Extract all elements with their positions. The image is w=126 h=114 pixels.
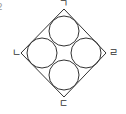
label-top: ㄱ bbox=[59, 0, 68, 9]
label-left: ㄴ bbox=[12, 48, 21, 58]
diagram: 2 ㄱ ㄴ ㄹ ㄷ bbox=[0, 0, 126, 114]
circle-left bbox=[27, 38, 57, 68]
problem-number: 2 bbox=[0, 2, 3, 12]
circle-right bbox=[71, 38, 101, 68]
circle-top bbox=[49, 16, 79, 46]
label-right: ㄹ bbox=[109, 48, 118, 58]
rotated-square bbox=[21, 9, 106, 97]
label-bottom: ㄷ bbox=[59, 99, 68, 109]
circle-bottom bbox=[49, 60, 79, 90]
